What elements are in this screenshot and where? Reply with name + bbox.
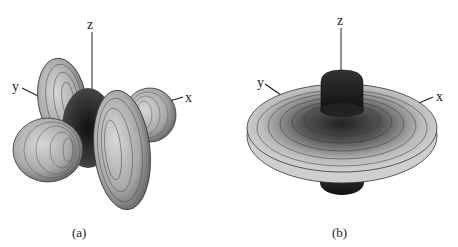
x-axis-label: x — [436, 90, 443, 104]
x-axis-label: x — [185, 91, 192, 105]
z-axis-label: z — [337, 14, 343, 28]
panel-b: z y x (b) — [229, 0, 458, 247]
y-axis-label: y — [12, 80, 19, 94]
panel-caption: (b) — [332, 226, 347, 239]
y-axis-label: y — [257, 76, 264, 90]
panel-a: z y x (a) — [0, 0, 229, 247]
z-axis-label: z — [87, 18, 93, 32]
lobed-surface-plot — [0, 0, 229, 247]
panel-caption: (a) — [72, 226, 86, 239]
disc-surface-plot — [229, 0, 458, 247]
